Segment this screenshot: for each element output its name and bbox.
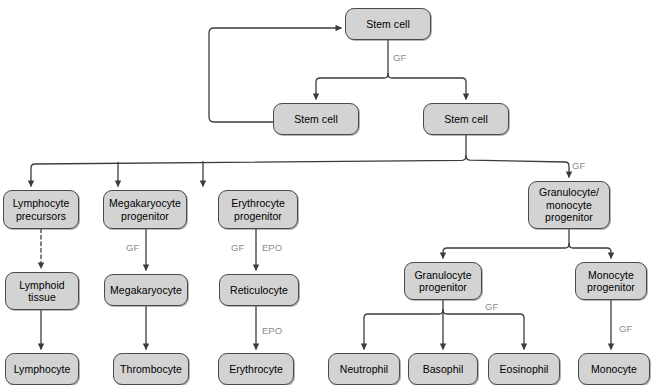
- node-granulocyte-monocyte-progenitor[interactable]: Granulocyte/monocyteprogenitor: [528, 181, 610, 229]
- edge-label-epo-reticulocyte: EPO: [262, 325, 282, 336]
- node-erythrocyte-progenitor[interactable]: Erythrocyteprogenitor: [218, 190, 298, 229]
- edge-gran-prog-to-eosinophil: [443, 310, 524, 349]
- node-label: Lymphoidtissue: [16, 279, 68, 304]
- node-label: Megakaryocyteprogenitor: [106, 197, 184, 222]
- node-label: Eosinophil: [497, 363, 552, 376]
- node-label: Monocyte: [588, 363, 640, 376]
- node-lymphocyte[interactable]: Lymphocyte: [5, 353, 79, 385]
- node-neutrophil[interactable]: Neutrophil: [328, 353, 400, 385]
- node-eosinophil[interactable]: Eosinophil: [488, 353, 560, 385]
- node-stem-cell-top[interactable]: Stem cell: [345, 8, 431, 40]
- node-label: Reticulocyte: [227, 284, 291, 297]
- node-label: Granulocyteprogenitor: [411, 269, 474, 294]
- edge-label-epo-erythrocyte: EPO: [262, 242, 282, 253]
- haematopoiesis-diagram: Stem cell Stem cell Stem cell Lymphocyte…: [0, 0, 652, 385]
- node-thrombocyte[interactable]: Thrombocyte: [113, 353, 189, 385]
- node-label: Thrombocyte: [117, 363, 185, 376]
- node-monocyte[interactable]: Monocyte: [578, 353, 650, 385]
- node-megakaryocyte-progenitor[interactable]: Megakaryocyteprogenitor: [103, 190, 187, 229]
- node-label: Lymphocyte: [11, 363, 74, 376]
- edge-label-gf-megakaryocyte: GF: [126, 242, 139, 253]
- node-stem-cell-right[interactable]: Stem cell: [423, 103, 509, 135]
- edge-split-to-stem-left: [316, 74, 388, 99]
- node-reticulocyte[interactable]: Reticulocyte: [219, 274, 299, 306]
- edge-label-gf-granulocyte-monocyte-progenitor: GF: [572, 160, 585, 171]
- node-basophil[interactable]: Basophil: [408, 353, 478, 385]
- node-granulocyte-progenitor[interactable]: Granulocyteprogenitor: [404, 262, 482, 300]
- node-label: Erythrocyteprogenitor: [228, 197, 288, 222]
- edge-label-gf-erythrocyte: GF: [231, 242, 244, 253]
- node-label: Erythrocyte: [226, 363, 286, 376]
- edge-gran-prog-to-neutrophil: [364, 310, 443, 349]
- node-monocyte-progenitor[interactable]: Monocyteprogenitor: [575, 262, 647, 300]
- edge-label-gf-granulocyte-progenitor: GF: [485, 301, 498, 312]
- node-erythrocyte[interactable]: Erythrocyte: [218, 353, 294, 385]
- node-label: Stem cell: [291, 113, 341, 126]
- edge-label-gf-monocyte-progenitor: GF: [619, 323, 632, 334]
- node-label: Granulocyte/monocyteprogenitor: [536, 186, 602, 224]
- node-lymphocyte-precursors[interactable]: Lymphocyteprecursors: [3, 190, 79, 229]
- edge-lineage-bus-left: [31, 156, 466, 186]
- edge-label-gf-stem-split: GF: [393, 52, 406, 63]
- node-lymphoid-tissue[interactable]: Lymphoidtissue: [5, 272, 79, 310]
- edge-gmp-to-mono-prog: [569, 244, 611, 258]
- node-label: Stem cell: [441, 113, 491, 126]
- node-stem-cell-left[interactable]: Stem cell: [273, 103, 359, 135]
- edge-split-to-stem-right: [388, 74, 466, 99]
- node-label: Neutrophil: [337, 363, 391, 376]
- node-label: Megakaryocyte: [107, 284, 185, 297]
- node-label: Lymphocyteprecursors: [10, 197, 73, 222]
- node-megakaryocyte[interactable]: Megakaryocyte: [104, 274, 188, 306]
- edge-gmp-to-gran-prog: [443, 244, 569, 258]
- edge-lineage-bus-right: [466, 156, 569, 177]
- node-label: Stem cell: [363, 18, 413, 31]
- node-label: Basophil: [420, 363, 467, 376]
- node-label: Monocyteprogenitor: [584, 269, 638, 294]
